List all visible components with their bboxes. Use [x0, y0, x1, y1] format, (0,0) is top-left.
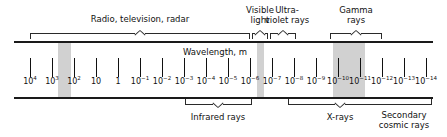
- radio-television-radar-label: Radio, television, radar: [91, 14, 189, 24]
- tick-label: 104: [23, 78, 37, 86]
- top-axis-rule: [14, 41, 433, 43]
- tick-mark: [382, 58, 383, 77]
- x-rays-label: X-rays: [327, 112, 354, 122]
- tick-mark: [96, 58, 97, 77]
- tick-label: 10−1: [131, 78, 149, 86]
- visible-band: [257, 41, 264, 99]
- tick-mark: [140, 58, 141, 77]
- tick-mark: [404, 58, 405, 77]
- secondary-cosmic-rays-label: Secondarycosmic rays: [379, 110, 429, 130]
- tick-label: 10−7: [263, 78, 281, 86]
- tick-label: 103: [45, 78, 59, 86]
- tick-label: 10−13: [393, 78, 415, 86]
- ultraviolet-rays-label: Ultra-violet rays: [265, 5, 309, 25]
- tick-mark: [228, 58, 229, 77]
- tick-label: 10−5: [219, 78, 237, 86]
- tick-label: 10−4: [197, 78, 215, 86]
- tick-label: 10: [91, 78, 101, 86]
- tick-label: 1: [115, 78, 120, 86]
- tick-mark: [294, 58, 295, 77]
- tick-mark: [74, 58, 75, 77]
- tick-mark: [338, 58, 339, 77]
- tick-label: 10−8: [285, 78, 303, 86]
- tick-mark: [52, 58, 53, 77]
- tick-label: 10−12: [371, 78, 393, 86]
- tick-mark: [272, 58, 273, 77]
- tick-label: 10−11: [349, 78, 371, 86]
- tick-mark: [426, 58, 427, 77]
- tick-label: 10−10: [327, 78, 349, 86]
- tick-mark: [30, 58, 31, 77]
- tick-mark: [206, 58, 207, 77]
- gamma-rays-label: Gammarays: [339, 5, 373, 25]
- tick-label: 10−9: [307, 78, 325, 86]
- tick-label: 10−2: [153, 78, 171, 86]
- tick-mark: [118, 58, 119, 77]
- tick-label: 10−6: [241, 78, 259, 86]
- tick-label: 10−14: [415, 78, 437, 86]
- tick-label: 10−3: [175, 78, 193, 86]
- tick-mark: [360, 58, 361, 77]
- tick-mark: [184, 58, 185, 77]
- tick-label: 102: [67, 78, 81, 86]
- tick-mark: [250, 58, 251, 77]
- axis-title: Wavelength, m: [183, 47, 247, 57]
- tick-mark: [162, 58, 163, 77]
- tick-mark: [316, 58, 317, 77]
- infrared-rays-label: Infrared rays: [191, 112, 245, 122]
- electromagnetic-spectrum-diagram: 10410310210110−110−210−310−410−510−610−7…: [0, 0, 447, 137]
- broadcast-band: [58, 41, 71, 99]
